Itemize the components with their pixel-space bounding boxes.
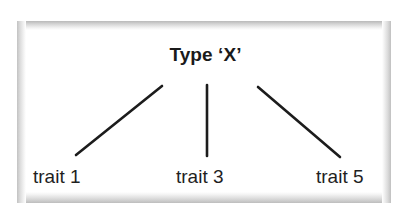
connector-line-trait-1: [76, 86, 162, 155]
leaf-node-trait-3: trait 3: [176, 166, 224, 188]
leaf-node-trait-1: trait 1: [33, 166, 81, 188]
leaf-node-trait-5: trait 5: [316, 166, 364, 188]
connector-line-trait-5: [258, 87, 340, 157]
